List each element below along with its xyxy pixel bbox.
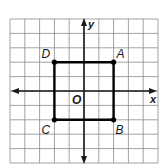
vertex-a-label: A bbox=[116, 47, 125, 61]
origin-label: O bbox=[72, 93, 82, 107]
vertex-d-label: D bbox=[41, 47, 50, 61]
vertex-b-label: B bbox=[116, 123, 124, 137]
y-axis-label: y bbox=[87, 18, 95, 30]
vertex-c-label: C bbox=[41, 123, 50, 137]
x-axis-arrow-left-icon bbox=[11, 88, 19, 94]
coordinate-plane-diagram: x y O A B C D bbox=[0, 0, 164, 168]
x-axis-label: x bbox=[149, 93, 157, 105]
